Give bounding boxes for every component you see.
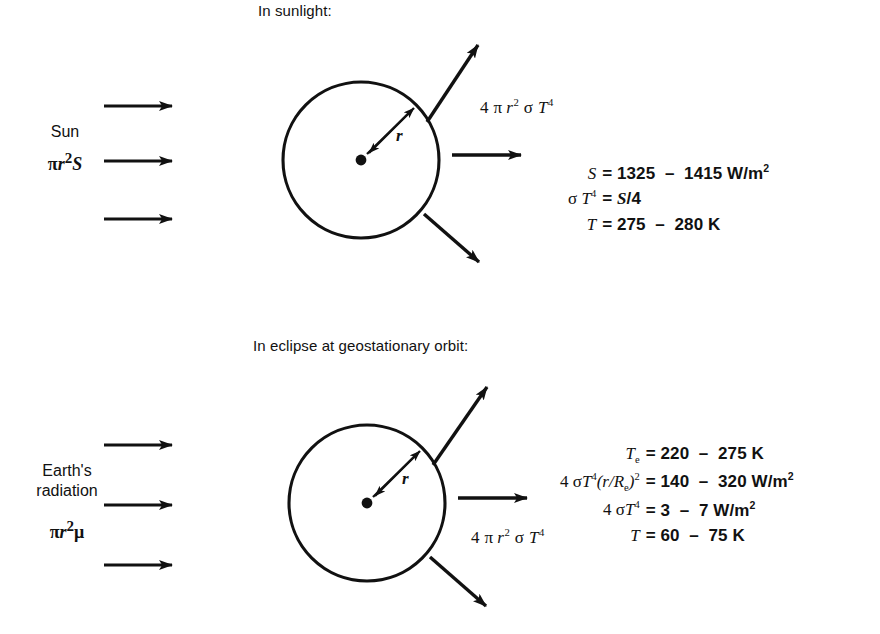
center-dot-sunlight — [356, 155, 367, 166]
equation-rhs: = S/4 — [602, 186, 769, 212]
equation-lhs: σ T4 — [568, 186, 602, 212]
radius-arrow-sunlight — [367, 108, 414, 154]
panel-sunlight-lineart — [104, 45, 521, 262]
equation-row: 4 σT4 = 3 – 7 W/m2 — [560, 497, 794, 523]
equation-row: 4 σT4(r/Re)2 = 140 – 320 W/m2 — [560, 468, 794, 496]
equation-row: T = 60 – 75 K — [560, 523, 794, 549]
radius-arrow-eclipse — [373, 451, 420, 497]
emitted-flux-label-sunlight: 4 π r2 σ T4 — [480, 96, 554, 118]
equation-row: σ T4 = S/4 — [568, 186, 769, 212]
incoming-label-earth-line2: radiation — [8, 481, 126, 501]
panel-title-sunlight: In sunlight: — [258, 2, 332, 19]
equation-lhs: 4 σT4 — [560, 497, 646, 523]
center-dot-eclipse — [362, 498, 373, 509]
incoming-flux-sun: πr2S — [20, 150, 110, 175]
equation-rhs: = 60 – 75 K — [646, 523, 794, 549]
radius-label-eclipse: r — [402, 469, 409, 489]
equation-row: T = 275 – 280 K — [568, 212, 769, 238]
equation-rhs: = 275 – 280 K — [602, 212, 769, 238]
equation-lhs: S — [568, 160, 602, 186]
equation-lhs: Te — [560, 441, 646, 468]
equation-row: S = 1325 – 1415 W/m2 — [568, 160, 769, 186]
equation-lhs: 4 σT4(r/Re)2 — [560, 468, 646, 496]
incoming-label-earth-line1: Earth's — [8, 461, 126, 481]
figure-caption-fragment — [0, 627, 880, 634]
equation-lhs: T — [568, 212, 602, 238]
equation-rhs: = 140 – 320 W/m2 — [646, 468, 794, 496]
figure-canvas: In sunlight: Sun πr2S r 4 π r2 σ T4 S = … — [0, 0, 880, 634]
caption-text — [60, 627, 64, 633]
equation-lhs: T — [560, 523, 646, 549]
equation-rhs: = 220 – 275 K — [646, 441, 794, 468]
equation-rhs: = 1325 – 1415 W/m2 — [602, 160, 769, 186]
incoming-flux-earth: πr2μ — [8, 518, 126, 543]
panel-eclipse-lineart — [104, 387, 527, 606]
equation-rhs: = 3 – 7 W/m2 — [646, 497, 794, 523]
incoming-arrows-sunlight — [104, 106, 172, 219]
panel-title-eclipse: In eclipse at geostationary orbit: — [253, 337, 468, 354]
emitted-flux-label-eclipse: 4 π r2 σ T4 — [471, 526, 545, 548]
radius-label-sunlight: r — [396, 126, 403, 146]
incoming-label-sun: Sun — [20, 122, 110, 142]
equation-row: Te = 220 – 275 K — [560, 441, 794, 468]
equation-group-sunlight: S = 1325 – 1415 W/m2 σ T4 = S/4 T = 275 … — [568, 160, 769, 238]
equation-group-eclipse: Te = 220 – 275 K 4 σT4(r/Re)2 = 140 – 32… — [560, 441, 794, 549]
